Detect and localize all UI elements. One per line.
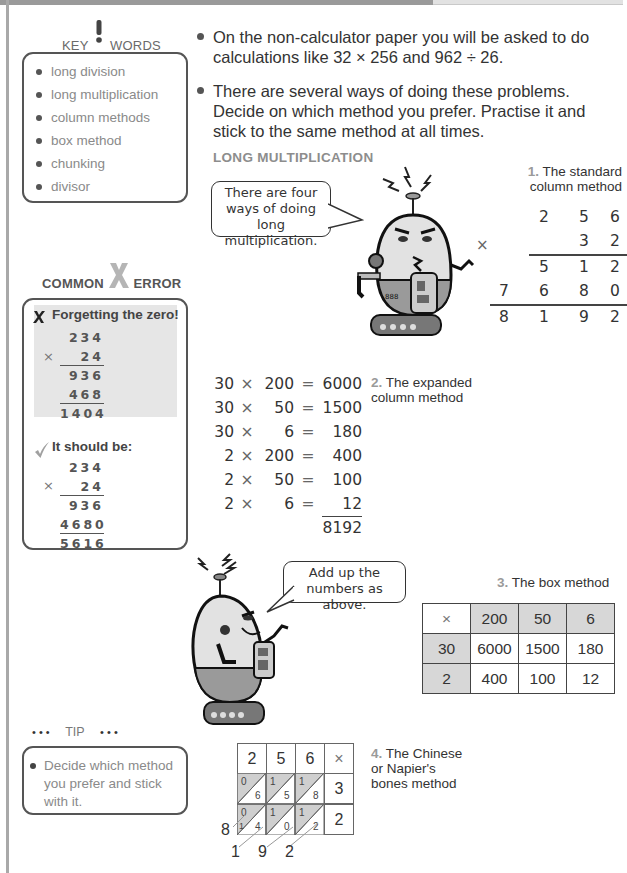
- common-error-title-right: ERROR: [133, 276, 181, 291]
- cell: 6000: [471, 634, 519, 664]
- method-3-label: 3. The box method: [497, 575, 609, 590]
- key-words-title: KEY WORDS: [62, 30, 161, 53]
- method-number: 3.: [497, 575, 508, 590]
- method-title: The box method: [512, 575, 610, 590]
- result-digit: 8: [221, 821, 230, 839]
- cell: 100: [322, 468, 362, 492]
- calc-partial2: 4680: [60, 515, 104, 534]
- speech-bubble-2: Add up the numbers as above.: [283, 561, 406, 603]
- key-word-item: column methods: [34, 106, 186, 129]
- table-row: 2×200=400: [210, 444, 362, 468]
- cell: 30: [423, 634, 471, 664]
- digit: 8: [574, 279, 594, 303]
- tip-title: • • • TIP • • •: [32, 725, 118, 739]
- header-bar-light: [433, 0, 623, 5]
- cell: 400: [471, 664, 519, 694]
- calc-partial2: 468: [60, 385, 104, 404]
- digit: 2: [605, 305, 625, 329]
- cell: ×: [234, 420, 260, 444]
- digit: 5: [574, 205, 594, 229]
- intro-bullet-2: There are several ways of doing these pr…: [213, 81, 618, 141]
- calc-multiplier: 24: [60, 477, 104, 496]
- table-row-total: 8192: [210, 516, 362, 540]
- exclamation-icon: [94, 30, 104, 52]
- cell: 50: [260, 468, 294, 492]
- table-row: 2×50=100: [210, 468, 362, 492]
- method-title: The expanded column method: [371, 375, 472, 405]
- speech-bubble-1: There are four ways of doing long multip…: [211, 181, 331, 237]
- units-digit: 5: [284, 790, 290, 801]
- cell: 50: [260, 396, 294, 420]
- units-digit: 8: [313, 790, 319, 801]
- box-method-grid: × 200 50 6 30 6000 1500 180 2 400 100 12: [422, 603, 615, 694]
- right-calculation: 234 24 936 4680 5616: [60, 458, 104, 553]
- cell: 12: [567, 664, 615, 694]
- method-2-label: 2. The expanded column method: [371, 375, 481, 405]
- times-sign: ×: [43, 478, 54, 493]
- right-heading: It should be:: [52, 439, 132, 454]
- calc-top: 234: [60, 328, 104, 347]
- common-error-title-left: COMMON: [42, 276, 104, 291]
- wrong-heading: Forgetting the zero!: [52, 307, 179, 322]
- robot-illustration-icon: [190, 552, 300, 736]
- table-row: 30×6=180: [210, 420, 362, 444]
- tip-panel: Decide which method you prefer and stick…: [22, 746, 188, 815]
- digit: 3: [574, 229, 594, 253]
- cell: 2: [237, 743, 267, 774]
- cell: ×: [234, 396, 260, 420]
- key-words-title-right: WORDS: [110, 38, 161, 53]
- cell: =: [294, 420, 322, 444]
- cell: 12: [322, 492, 362, 516]
- cell: 5: [266, 743, 296, 774]
- cell: 2: [210, 468, 234, 492]
- times-sign: ×: [43, 349, 54, 364]
- cell: 180: [322, 420, 362, 444]
- key-word-item: long multiplication: [34, 83, 186, 106]
- tens-digit: 1: [270, 776, 276, 787]
- calc-top: 234: [60, 458, 104, 477]
- digit: 9: [574, 305, 594, 329]
- cell: =: [294, 372, 322, 396]
- method-1-label: 1. The standard column method: [522, 164, 622, 194]
- cell: 6: [567, 604, 615, 634]
- cell: 400: [322, 444, 362, 468]
- method-number: 1.: [528, 164, 539, 179]
- cell: 30: [210, 420, 234, 444]
- calc-partial1: 936: [60, 496, 104, 515]
- key-word-item: box method: [34, 129, 186, 152]
- robot-illustration-icon: 888: [355, 165, 475, 344]
- digit: 8: [494, 305, 514, 329]
- digit: 6: [605, 205, 625, 229]
- total-cell: 8192: [322, 516, 362, 540]
- calc-total: 5616: [60, 534, 104, 553]
- section-heading: LONG MULTIPLICATION: [213, 150, 373, 165]
- cell: 50: [519, 604, 567, 634]
- key-word-item: divisor: [34, 175, 186, 198]
- tip-text: Decide which method you prefer and stick…: [24, 757, 186, 811]
- calc-total: 1404: [60, 404, 104, 423]
- cell: 200: [260, 444, 294, 468]
- table-row: 2×6=12: [210, 492, 362, 516]
- cell: =: [294, 468, 322, 492]
- cell: 2: [324, 804, 354, 835]
- cell: =: [294, 492, 322, 516]
- table-row: 30×50=1500: [210, 396, 362, 420]
- method-title: The Chinese or Napier's bones method: [371, 746, 462, 791]
- units-digit: 6: [255, 790, 261, 801]
- check-icon: [34, 441, 50, 463]
- table-row: 30×200=6000: [210, 372, 362, 396]
- cell: ×: [234, 492, 260, 516]
- result-digit: 1: [231, 843, 240, 861]
- cell: 200: [260, 372, 294, 396]
- cell: 2: [423, 664, 471, 694]
- dots-decoration: • • •: [100, 726, 118, 738]
- method-4-label: 4. The Chinese or Napier's bones method: [371, 746, 471, 791]
- digit: 1: [574, 255, 594, 279]
- cell: 1500: [322, 396, 362, 420]
- cell: =: [294, 396, 322, 420]
- times-sign: ×: [476, 236, 489, 254]
- digit: 2: [605, 255, 625, 279]
- cell: 6000: [322, 372, 362, 396]
- cell: 3: [324, 773, 354, 804]
- cell: 6: [260, 420, 294, 444]
